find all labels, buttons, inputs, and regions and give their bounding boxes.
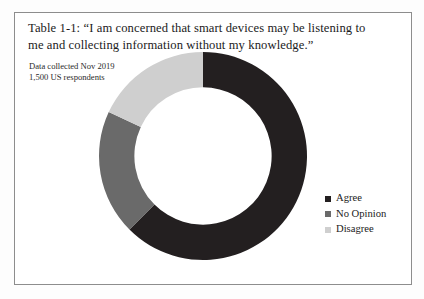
donut-chart-svg: [95, 48, 311, 264]
legend-item-agree: Agree: [325, 191, 421, 207]
chart-legend: AgreeNo OpinionDisagree: [325, 191, 421, 238]
legend-item-label: No Opinion: [336, 209, 386, 220]
legend-swatch-icon: [325, 211, 331, 217]
donut-segment-group: [99, 52, 307, 260]
legend-item-label: Agree: [336, 193, 362, 204]
donut-segment-no-opinion: [99, 112, 154, 229]
legend-swatch-icon: [325, 227, 331, 233]
donut-chart: [95, 48, 311, 264]
legend-item-label: Disagree: [336, 224, 374, 235]
donut-segment-disagree: [109, 52, 203, 127]
legend-swatch-icon: [325, 196, 331, 202]
legend-item-no-opinion: No Opinion: [325, 207, 421, 223]
figure-frame: Table 1-1: “I am concerned that smart de…: [14, 12, 412, 285]
legend-item-disagree: Disagree: [325, 222, 421, 238]
